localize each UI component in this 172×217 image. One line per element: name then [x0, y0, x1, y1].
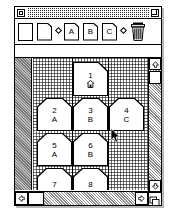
message-bar[interactable] [15, 45, 161, 58]
card-number: 4 [124, 106, 128, 115]
toolbar-item-new-card[interactable] [37, 23, 52, 41]
card-number: 8 [88, 180, 92, 189]
card-5[interactable]: 5 A [37, 133, 72, 166]
card-number: 7 [52, 180, 56, 189]
card-plain-icon [18, 23, 33, 41]
card-label: A [52, 150, 57, 159]
column-divider [108, 58, 109, 190]
toolbar-item-blank-card[interactable] [18, 23, 33, 41]
vertical-scrollbar-track[interactable] [149, 70, 161, 180]
screen: A B C [0, 0, 172, 217]
scroll-right-arrow-icon [138, 195, 145, 202]
scroll-down-arrow-icon [152, 183, 159, 190]
card-stack-canvas[interactable]: 1 2 A 3 [33, 58, 148, 190]
home-icon [87, 80, 94, 88]
toolbar-item-card-b[interactable]: B [83, 23, 98, 41]
card-label: B [88, 150, 93, 159]
card-number: 6 [88, 141, 92, 150]
close-box-button[interactable] [17, 9, 25, 17]
zoom-box-button[interactable] [151, 9, 159, 17]
scroll-left-arrow-icon [18, 195, 25, 202]
card-3[interactable]: 3 B [73, 98, 108, 131]
window-title-bar[interactable] [15, 7, 161, 19]
horizontal-scrollbar-thumb[interactable] [28, 192, 44, 205]
card-number: 3 [88, 106, 92, 115]
toolbar-card-c-label: C [103, 24, 116, 40]
toolbar-item-card-a[interactable]: A [64, 23, 79, 41]
card-notched-icon: A [64, 23, 79, 41]
toolbar-item-trash[interactable] [130, 22, 146, 41]
diamond-separator-icon [55, 28, 62, 35]
window-grow-box[interactable] [148, 192, 161, 205]
toolbar-card-b-label: B [84, 24, 97, 40]
horizontal-scrollbar[interactable] [15, 191, 161, 205]
toolbar: A B C [15, 19, 161, 45]
vertical-scrollbar-thumb[interactable] [149, 71, 161, 84]
scroll-up-arrow-icon [152, 61, 159, 68]
toolbar-card-a-label: A [65, 24, 78, 40]
resize-grip-icon [149, 196, 160, 207]
card-4[interactable]: 4 C [109, 98, 144, 131]
trash-can-icon [130, 22, 146, 41]
scroll-right-button[interactable] [135, 192, 148, 205]
canvas-area: 1 2 A 3 [15, 58, 161, 205]
card-1[interactable]: 1 [73, 62, 108, 96]
card-number: 1 [88, 71, 92, 80]
vertical-scrollbar[interactable] [148, 58, 161, 205]
title-bar-stripes [27, 8, 149, 18]
card-notched-icon: C [102, 23, 117, 41]
card-6[interactable]: 6 B [73, 133, 108, 166]
card-7[interactable]: 7 [37, 168, 72, 190]
toolbar-item-card-c[interactable]: C [102, 23, 117, 41]
card-notched-icon [37, 23, 52, 41]
diamond-separator-icon [120, 28, 127, 35]
card-8[interactable]: 8 [73, 168, 108, 190]
scroll-left-button[interactable] [15, 192, 28, 205]
card-number: 5 [52, 141, 56, 150]
horizontal-scrollbar-track[interactable] [28, 192, 135, 205]
card-notched-icon: B [83, 23, 98, 41]
application-window: A B C [14, 6, 162, 206]
left-gutter [15, 58, 32, 190]
card-label: B [88, 115, 93, 124]
card-2[interactable]: 2 A [37, 98, 72, 131]
card-number: 2 [52, 106, 56, 115]
scroll-up-button[interactable] [149, 58, 161, 70]
card-label: A [52, 115, 57, 124]
column-divider [72, 58, 73, 190]
card-label: C [124, 115, 130, 124]
